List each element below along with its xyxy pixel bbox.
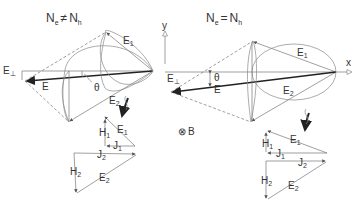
y-axis-label: y (162, 20, 167, 31)
left-dash-top (25, 32, 106, 81)
left-vd-j1-label: J1 (113, 140, 122, 152)
left-vd-e2-label: E2 (99, 172, 110, 184)
left-vector-diagram: E1 H1 J1 J2 H2 E2 (70, 117, 136, 193)
right-eperp-label: E⊥ (167, 73, 180, 85)
right-vd-j2-label: J2 (298, 157, 307, 169)
right-theta-label: θ (214, 72, 220, 83)
left-eperp-label: E⊥ (3, 65, 16, 77)
magnetic-field-label: ⊗B (178, 126, 195, 137)
right-e1-vector (254, 42, 336, 72)
right-vector-diagram: E1 H1 J1 J2 H2 E2 (261, 131, 327, 199)
right-e1-label: E1 (297, 47, 308, 59)
right-vd-e2-label: E2 (288, 180, 299, 192)
right-e2-vector (252, 72, 336, 121)
y-axis-arrow-icon (163, 31, 168, 36)
right-e2-label: E2 (283, 85, 294, 97)
left-e1-label: E1 (123, 35, 134, 47)
left-vd-h1-label: H1 (99, 127, 110, 139)
x-axis-arrow-icon (347, 70, 352, 75)
left-vd-e2 (77, 155, 136, 193)
right-vd-h2-label: H2 (261, 175, 272, 187)
right-e-label: E (214, 84, 221, 95)
axes: x y (162, 20, 352, 75)
left-vd-j2-label: J2 (97, 149, 106, 161)
right-dash-bottom (171, 92, 251, 122)
right-rotation-arrow-icon (305, 113, 309, 130)
left-e-vector (27, 71, 153, 81)
right-vd-e2 (268, 162, 326, 199)
left-e1-vector (107, 33, 153, 71)
left-large-arc (63, 46, 153, 122)
left-panel: Ne≠Nh E⊥ E θ E1 E2 (3, 11, 153, 193)
left-e2-label: E2 (109, 95, 120, 107)
left-theta-label: θ (94, 82, 100, 93)
left-e-label: E (42, 81, 49, 92)
left-vd-e1-label: E1 (117, 124, 128, 136)
diagram-canvas: Ne≠Nh E⊥ E θ E1 E2 (0, 0, 355, 207)
right-vd-e1-label: E1 (290, 134, 301, 146)
left-vd-h2-label: H2 (70, 166, 81, 178)
right-title: Ne=Nh (206, 11, 242, 26)
right-vd-h1-label: H1 (262, 138, 273, 150)
right-panel: Ne=Nh θ E⊥ E E1 E2 (167, 11, 336, 199)
cross-into-page-icon: ⊗ (178, 126, 186, 137)
x-axis-label: x (346, 57, 351, 68)
left-title: Ne≠Nh (46, 11, 82, 26)
right-vd-j1-label: J1 (276, 148, 285, 160)
